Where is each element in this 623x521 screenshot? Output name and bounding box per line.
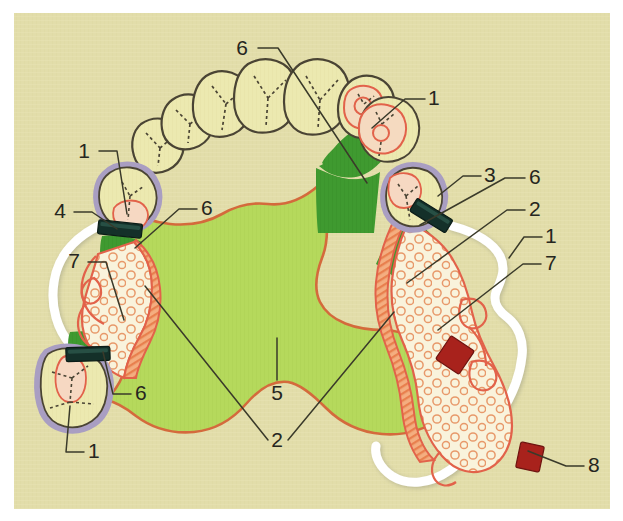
callout-label-6: 6 bbox=[236, 36, 248, 59]
callout-label-8: 8 bbox=[588, 453, 600, 476]
figure-container: 6113646217765218 bbox=[0, 0, 623, 521]
callout-label-3: 3 bbox=[484, 163, 496, 186]
crown-right-upper-molar bbox=[359, 97, 419, 162]
callout-label-6: 6 bbox=[135, 381, 147, 404]
callout-label-2: 2 bbox=[529, 197, 541, 220]
retainer-red-lower bbox=[516, 442, 545, 472]
callout-label-4: 4 bbox=[54, 199, 66, 222]
callout-label-1: 1 bbox=[545, 224, 557, 247]
dental-diagram-svg: 6113646217765218 bbox=[0, 0, 623, 521]
callout-label-6: 6 bbox=[201, 196, 213, 219]
callout-label-1: 1 bbox=[88, 439, 100, 462]
callout-label-1: 1 bbox=[428, 86, 440, 109]
callout-label-5: 5 bbox=[271, 381, 283, 404]
callout-label-2: 2 bbox=[271, 428, 283, 451]
callout-label-6: 6 bbox=[529, 165, 541, 188]
callout-label-1: 1 bbox=[78, 139, 90, 162]
callout-label-7: 7 bbox=[545, 251, 557, 274]
callout-label-7: 7 bbox=[68, 249, 80, 272]
